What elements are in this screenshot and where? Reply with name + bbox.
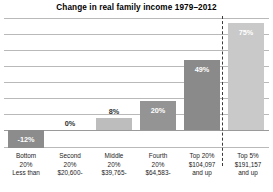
bar-column-top-5: 75%	[224, 18, 268, 148]
bar[interactable]	[228, 23, 264, 130]
x-tick-line-2: $104,097	[180, 161, 224, 170]
x-tick-fourth-20: Fourth 20% $64,583-	[136, 152, 180, 178]
x-tick-line-3: and up	[224, 169, 272, 178]
x-tick-top-5: Top 5% $191,157 and up	[224, 152, 272, 178]
x-tick-line-3: $64,583-	[136, 169, 180, 178]
bar-value-label: 8%	[92, 107, 136, 116]
bar[interactable]	[96, 118, 132, 130]
x-tick-line-1: Middle	[92, 152, 136, 161]
bar-column-middle-20: 8%	[92, 18, 136, 148]
bars-layer: -12% 0% 8% 20% 49% 75%	[4, 18, 269, 148]
bar-column-second-20: 0%	[48, 18, 92, 148]
x-tick-middle-20: Middle 20% $39,765-	[92, 152, 136, 178]
x-tick-line-2: $191,157	[224, 161, 272, 170]
bar-chart: Change in real family income 1979–2012 -…	[0, 0, 273, 192]
bar-column-top-20: 49%	[180, 18, 224, 148]
bar-value-label: 49%	[180, 65, 224, 74]
bar-value-label: 20%	[136, 106, 180, 115]
x-axis-labels: Bottom 20% Less than Second 20% $20,600-…	[4, 152, 269, 192]
chart-title: Change in real family income 1979–2012	[0, 3, 273, 12]
bar-value-label: 0%	[48, 119, 92, 128]
bar-column-bottom-20: -12%	[4, 18, 48, 148]
x-tick-line-2: 20%	[136, 161, 180, 170]
x-tick-line-1: Top 5%	[224, 152, 272, 161]
x-tick-line-2: 20%	[92, 161, 136, 170]
x-tick-line-3: Less than	[4, 169, 48, 178]
x-tick-line-2: 20%	[4, 161, 48, 170]
x-tick-line-3: $39,765-	[92, 169, 136, 178]
x-tick-line-2: 20%	[48, 161, 92, 170]
x-tick-line-3: and up	[180, 169, 224, 178]
x-tick-line-1: Second	[48, 152, 92, 161]
x-tick-bottom-20: Bottom 20% Less than	[4, 152, 48, 178]
x-tick-line-1: Bottom	[4, 152, 48, 161]
x-tick-line-1: Fourth	[136, 152, 180, 161]
x-tick-second-20: Second 20% $20,600-	[48, 152, 92, 178]
plot-area: -12% 0% 8% 20% 49% 75%	[4, 18, 269, 148]
bar-column-fourth-20: 20%	[136, 18, 180, 148]
x-tick-top-20: Top 20% $104,097 and up	[180, 152, 224, 178]
bar-value-label: -12%	[4, 135, 48, 144]
top-five-percent-divider	[222, 16, 223, 166]
x-tick-line-3: $20,600-	[48, 169, 92, 178]
x-tick-line-1: Top 20%	[180, 152, 224, 161]
bar-value-label: 75%	[224, 28, 268, 37]
